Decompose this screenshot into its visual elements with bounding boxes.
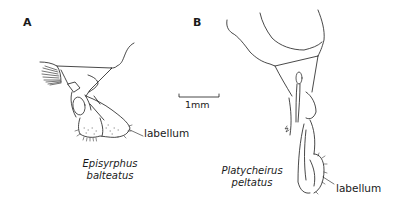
labellum-label-a: labellum bbox=[144, 127, 189, 139]
panel-label-b: B bbox=[193, 16, 201, 29]
specimen-a-drawing bbox=[40, 43, 143, 141]
species-name-b-line1: Platycheirus bbox=[218, 165, 286, 177]
labellum-label-b: labellum bbox=[336, 182, 381, 194]
scale-bar-label: 1mm bbox=[185, 99, 210, 110]
panel-label-a: A bbox=[23, 16, 32, 29]
scale-bar bbox=[179, 94, 219, 97]
species-name-b: Platycheirus peltatus bbox=[218, 165, 286, 189]
species-name-a: Episyrphus balteatus bbox=[60, 158, 160, 182]
species-name-b-line2: peltatus bbox=[218, 177, 286, 189]
